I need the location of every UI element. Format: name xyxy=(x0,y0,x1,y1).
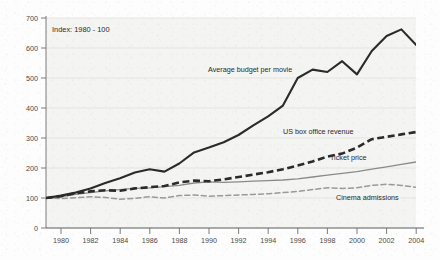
series-label-cinema-admissions: Cinema admissions xyxy=(336,193,399,202)
series-label-us-box-office-revenue: US box office revenue xyxy=(283,127,354,136)
x-tick-label: 1980 xyxy=(53,236,69,245)
x-tick-label: 1986 xyxy=(142,236,158,245)
y-tick-label: 200 xyxy=(26,164,38,173)
x-tick-label: 1992 xyxy=(231,236,247,245)
x-tick-label: 1994 xyxy=(260,236,276,245)
x-axis-tick-labels: 1980 1982 1984 1986 1988 1990 1992 1994 … xyxy=(53,236,424,245)
x-tick-label: 1988 xyxy=(171,236,187,245)
x-tick-label: 1982 xyxy=(83,236,99,245)
series-label-average-budget-per-movie: Average budget per movie xyxy=(208,65,292,74)
x-tick-label: 2004 xyxy=(408,236,424,245)
y-tick-label: 700 xyxy=(26,14,38,23)
x-tick-label: 1984 xyxy=(112,236,128,245)
x-axis-ticks xyxy=(61,228,416,234)
series-label-ticket-price: Ticket price xyxy=(330,153,366,162)
y-tick-label: 100 xyxy=(26,194,38,203)
line-chart: 700 600 500 400 300 200 100 0 xyxy=(0,0,440,260)
x-tick-label: 1990 xyxy=(201,236,217,245)
chart-figure: 700 600 500 400 300 200 100 0 xyxy=(0,0,440,260)
y-tick-label: 600 xyxy=(26,44,38,53)
y-tick-label: 300 xyxy=(26,134,38,143)
y-tick-label: 400 xyxy=(26,104,38,113)
y-axis-tick-labels: 700 600 500 400 300 200 100 0 xyxy=(26,14,38,233)
y-tick-label: 0 xyxy=(34,224,38,233)
x-tick-label: 1996 xyxy=(290,236,306,245)
x-tick-label: 1998 xyxy=(319,236,335,245)
y-axis-ticks xyxy=(41,18,46,228)
x-tick-label: 2002 xyxy=(379,236,395,245)
index-note: Index: 1980 - 100 xyxy=(52,25,110,34)
y-tick-label: 500 xyxy=(26,74,38,83)
x-tick-label: 2000 xyxy=(349,236,365,245)
